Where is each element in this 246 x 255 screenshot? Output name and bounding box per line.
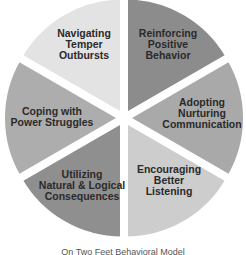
segment-label-coping: Coping withPower Struggles: [11, 105, 94, 128]
diagram-caption: On Two Feet Behavioral Model: [0, 247, 246, 255]
behavior-wheel-diagram: ReinforcingPositiveBehaviorAdoptingNurtu…: [0, 0, 246, 255]
